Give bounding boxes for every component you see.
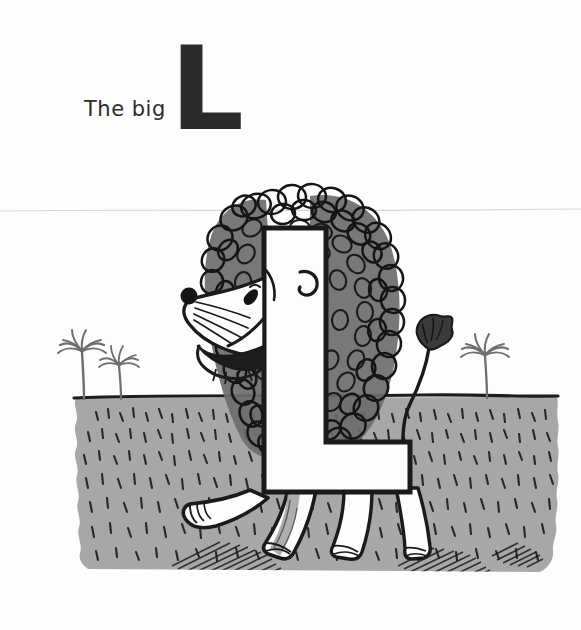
tail-tuft (417, 315, 453, 350)
page-root: The big L (0, 0, 581, 630)
palm-tree-right (461, 334, 509, 398)
palm-tree-left-tall (58, 330, 106, 399)
palm-tree-left-short (99, 346, 139, 399)
lion-illustration (0, 0, 581, 630)
nose (181, 288, 198, 305)
